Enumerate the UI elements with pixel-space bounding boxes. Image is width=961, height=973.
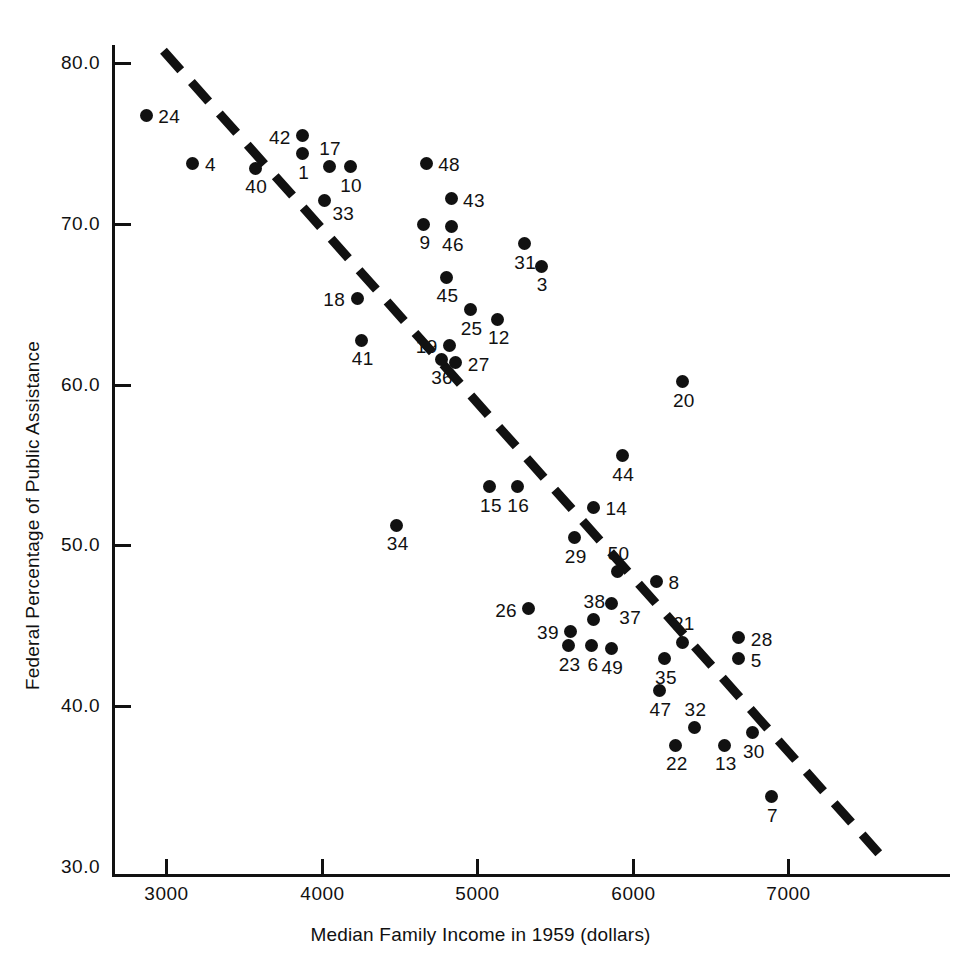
data-point-label: 39 [537, 623, 559, 642]
data-point [732, 652, 745, 665]
data-point [605, 597, 618, 610]
data-point-label: 26 [495, 600, 517, 619]
data-point [669, 739, 682, 752]
data-point-label: 46 [442, 235, 464, 254]
data-point-label: 32 [685, 700, 707, 719]
data-point-label: 5 [751, 650, 762, 669]
data-point-label: 24 [158, 107, 180, 126]
data-point-label: 6 [587, 655, 598, 674]
data-point-label: 41 [352, 349, 374, 368]
data-point [249, 162, 262, 175]
data-point [718, 739, 731, 752]
data-point-label: 3 [537, 275, 548, 294]
data-point [585, 639, 598, 652]
data-point [616, 449, 629, 462]
data-point [676, 636, 689, 649]
data-point-label: 50 [608, 544, 630, 563]
data-point-label: 33 [332, 204, 354, 223]
data-point [186, 157, 199, 170]
data-point [564, 625, 577, 638]
x-tick-label: 4000 [276, 883, 369, 905]
data-point [587, 501, 600, 514]
data-point-label: 8 [668, 573, 679, 592]
data-point [658, 652, 671, 665]
data-point-label: 14 [605, 499, 627, 518]
data-point-label: 48 [438, 155, 460, 174]
data-point [483, 480, 496, 493]
data-point-label: 4 [205, 155, 216, 174]
data-point [435, 353, 448, 366]
data-point [443, 339, 456, 352]
data-point-label: 34 [387, 534, 409, 553]
y-tick-label: 30.0 [30, 856, 100, 878]
data-point-label: 45 [437, 286, 459, 305]
data-point [323, 160, 336, 173]
data-point-label: 36 [431, 368, 453, 387]
data-point-label: 1 [298, 163, 309, 182]
data-point-label: 20 [673, 391, 695, 410]
data-point-label: 38 [584, 592, 606, 611]
data-point [568, 531, 581, 544]
data-point [535, 260, 548, 273]
y-tick-label: 70.0 [30, 213, 100, 235]
data-point [732, 631, 745, 644]
data-point-label: 7 [767, 806, 778, 825]
y-tick [115, 705, 131, 708]
data-point-label: 43 [463, 190, 485, 209]
data-point [518, 237, 531, 250]
data-point-label: 30 [743, 742, 765, 761]
data-point [296, 147, 309, 160]
data-point [344, 160, 357, 173]
data-point [650, 575, 663, 588]
data-point-label: 21 [673, 614, 695, 633]
data-point [464, 303, 477, 316]
x-tick [165, 859, 168, 874]
data-point-label: 29 [565, 547, 587, 566]
data-point-label: 15 [480, 496, 502, 515]
chart-figure: 30004000500060007000 80.070.060.050.040.… [0, 0, 961, 973]
data-point [296, 129, 309, 142]
data-point-label: 25 [461, 319, 483, 338]
data-point-label: 22 [666, 754, 688, 773]
x-tick [632, 859, 635, 874]
data-point-label: 42 [269, 127, 291, 146]
x-tick [321, 859, 324, 874]
data-point [355, 334, 368, 347]
data-point-label: 19 [416, 337, 438, 356]
data-point [390, 519, 403, 532]
data-point [440, 271, 453, 284]
data-point [445, 220, 458, 233]
x-tick-label: 6000 [587, 883, 680, 905]
data-point [449, 356, 462, 369]
data-point-label: 37 [619, 608, 641, 627]
data-point [688, 721, 701, 734]
x-tick [787, 859, 790, 874]
data-point-label: 49 [601, 658, 623, 677]
data-point [562, 639, 575, 652]
data-point-label: 17 [319, 139, 341, 158]
data-point-label: 27 [468, 354, 490, 373]
data-point-label: 31 [514, 253, 536, 272]
data-point [445, 192, 458, 205]
y-axis-title: Federal Percentage of Public Assistance [22, 341, 44, 690]
data-point [676, 375, 689, 388]
data-point [318, 194, 331, 207]
data-point-label: 10 [340, 176, 362, 195]
data-point [605, 642, 618, 655]
y-tick [115, 62, 131, 65]
data-point [765, 790, 778, 803]
data-point [351, 292, 364, 305]
x-tick [476, 859, 479, 874]
data-point-label: 12 [488, 328, 510, 347]
data-point-label: 40 [245, 177, 267, 196]
data-point-label: 44 [612, 465, 634, 484]
data-point [587, 613, 600, 626]
data-point-label: 18 [323, 290, 345, 309]
data-point [140, 109, 153, 122]
y-tick-label: 40.0 [30, 695, 100, 717]
y-tick-label: 80.0 [30, 52, 100, 74]
x-tick-label: 3000 [120, 883, 213, 905]
data-point [420, 157, 433, 170]
data-point-label: 9 [419, 233, 430, 252]
y-axis-line [112, 45, 115, 877]
